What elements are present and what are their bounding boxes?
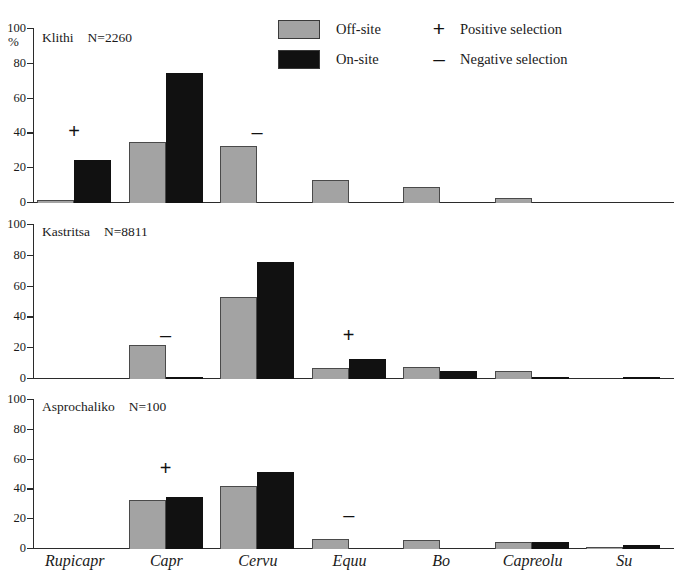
bar-off-site-capr [129,500,166,549]
y-axis-line [33,28,34,203]
bar-on-site-cervu [257,262,294,379]
bar-off-site-capr [129,142,166,203]
bar-off-site-cervu [220,146,257,203]
y-tick-label: 60 [0,280,26,292]
bar-on-site-rupicapr [74,160,111,204]
y-tick-mark [27,459,33,460]
bar-on-site-su [623,545,660,549]
y-axis-line [33,224,34,379]
category-label-capreolu: Capreolu [503,552,563,570]
y-tick-mark [27,132,33,133]
bar-off-site-capreolu [495,371,532,379]
category-label-capr: Capr [150,552,183,570]
bar-on-site-capreolu [532,377,569,379]
y-tick-label: 100 [0,218,26,230]
bar-off-site-cervu [220,297,257,379]
positive-selection-marker: + [160,458,172,478]
y-tick-mark [27,518,33,519]
y-tick-mark [27,224,33,225]
y-tick-mark [27,286,33,287]
y-tick-label: 80 [0,249,26,261]
bar-on-site-capr [166,497,203,549]
y-tick-mark [27,28,33,29]
panel-title-asprochaliko: AsprochalikoN=100 [42,399,166,415]
panel-asprochaliko: AsprochalikoN=100 020406080100 +– [0,399,676,549]
y-tick-label: 20 [0,161,26,173]
y-tick-label: 100 [0,22,26,34]
category-label-rupicapr: Rupicapr [45,552,105,570]
bar-off-site-equu [312,368,349,379]
positive-selection-marker: + [68,121,80,141]
y-tick-label: 100 [0,393,26,405]
y-axis-line [33,399,34,549]
panel-site-name: Asprochaliko [42,399,115,414]
bar-on-site-capr [166,73,203,204]
y-tick-mark [27,63,33,64]
bar-off-site-capr [129,345,166,379]
panel-title-kastritsa: KastritsaN=8811 [42,224,148,240]
bar-off-site-rupicapr [37,200,74,203]
panel-sample-size: N=2260 [88,30,132,45]
y-tick-label: 60 [0,92,26,104]
y-tick-label: 0 [0,196,26,208]
y-tick-mark [27,429,33,430]
y-tick-label: 0 [0,372,26,384]
bar-off-site-equu [312,539,349,549]
negative-selection-marker: – [252,122,263,142]
y-tick-label: 40 [0,126,26,138]
bar-off-site-su [586,547,623,549]
bar-off-site-cervu [220,486,257,549]
panel-sample-size: N=8811 [104,224,148,239]
y-tick-label: 80 [0,57,26,69]
y-tick-label: 60 [0,453,26,465]
y-tick-mark [27,347,33,348]
bar-off-site-bo [403,187,440,203]
bar-on-site-capr [166,377,203,379]
panel-site-name: Kastritsa [42,224,90,239]
bar-off-site-capreolu [495,198,532,203]
bar-off-site-equu [312,180,349,203]
bar-off-site-capreolu [495,542,532,549]
grouped-bar-chart-figure: Off-site + Positive selection On-site – … [0,0,676,586]
panel-site-name: Klithi [42,30,74,45]
y-tick-mark [27,167,33,168]
bar-off-site-bo [403,367,440,379]
y-axis-unit-label: % [8,34,19,50]
y-tick-mark [27,202,33,203]
y-tick-mark [27,316,33,317]
bar-on-site-cervu [257,472,294,549]
panel-sample-size: N=100 [129,399,167,414]
category-label-bo: Bo [432,552,450,570]
category-label-cervu: Cervu [238,552,277,570]
y-tick-label: 0 [0,542,26,554]
y-tick-label: 20 [0,341,26,353]
negative-selection-marker: – [160,325,171,345]
y-tick-mark [27,378,33,379]
category-label-equu: Equu [333,552,367,570]
bar-off-site-bo [403,540,440,549]
y-tick-mark [27,399,33,400]
category-axis-labels: RupicaprCaprCervuEquuBoCapreoluSu [33,552,674,578]
y-tick-mark [27,488,33,489]
y-tick-mark [27,255,33,256]
bar-on-site-capreolu [532,542,569,549]
y-tick-label: 40 [0,310,26,322]
y-tick-label: 40 [0,482,26,494]
y-tick-mark [27,548,33,549]
bar-on-site-equu [349,359,386,379]
panel-title-klithi: KlithiN=2260 [42,30,132,46]
y-tick-mark [27,98,33,99]
bar-on-site-su [623,377,660,379]
panel-kastritsa: KastritsaN=8811 020406080100 –+ [0,224,676,379]
bar-on-site-bo [440,371,477,379]
negative-selection-marker: – [343,505,354,525]
panel-klithi: % KlithiN=2260 020406080100 +– [0,28,676,203]
y-tick-label: 80 [0,423,26,435]
positive-selection-marker: + [343,325,355,345]
category-label-su: Su [616,552,632,570]
y-tick-label: 20 [0,512,26,524]
